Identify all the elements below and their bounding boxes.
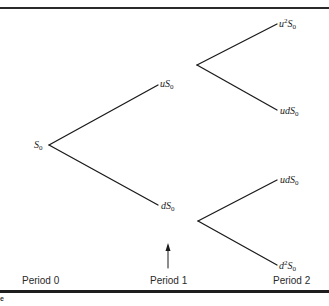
edge-up-updown <box>197 65 277 110</box>
node-root-sub: 0 <box>39 144 43 152</box>
edge-root-up <box>49 85 158 145</box>
node-down-sub: 0 <box>171 205 175 213</box>
period-1-label: Period 1 <box>150 275 187 286</box>
period-0-label: Period 0 <box>22 275 59 286</box>
node-up-label: uS0 <box>160 79 174 89</box>
edge-down-downdown <box>198 221 277 265</box>
node-root-label: S0 <box>34 140 43 150</box>
edge-root-down <box>49 145 158 205</box>
node-updown-sub: 0 <box>295 110 299 118</box>
node-downup-label: udS0 <box>280 175 299 185</box>
node-updown-label: udS0 <box>280 106 299 116</box>
node-upup-label: u2S0 <box>279 19 296 29</box>
edge-up-upup <box>197 24 277 65</box>
cropped-caption-fragment: e <box>0 296 4 302</box>
node-downdown-label: d2S0 <box>279 261 296 271</box>
arrow-up-icon <box>166 243 171 251</box>
node-down-label: dS0 <box>161 201 175 211</box>
binomial-tree-figure: S0 uS0 dS0 u2S0 udS0 udS0 d2S0 Period 0 … <box>0 0 329 306</box>
node-downup-prefix: ud <box>280 174 290 185</box>
period-2-label: Period 2 <box>273 275 310 286</box>
edge-down-downup <box>198 180 277 221</box>
node-upup-sub: 0 <box>293 23 297 31</box>
bottom-rule <box>0 290 329 293</box>
node-updown-prefix: ud <box>280 105 290 116</box>
node-downup-sub: 0 <box>295 179 299 187</box>
node-up-sub: 0 <box>170 83 174 91</box>
node-downdown-sub: 0 <box>293 265 297 273</box>
